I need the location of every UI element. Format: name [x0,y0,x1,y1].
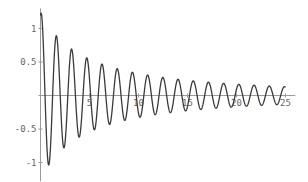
data-curve [41,13,286,165]
y-tick-label: -0.5 [15,124,37,134]
y-tick-label: 1 [31,24,36,34]
y-tick-label: -1 [26,158,37,168]
x-tick-label: 25 [280,98,291,108]
chart-plot: 510152025 10.5-0.5-1 [0,0,308,182]
y-ticks: 10.5-0.5-1 [15,24,43,168]
y-tick-label: 0.5 [20,57,36,67]
